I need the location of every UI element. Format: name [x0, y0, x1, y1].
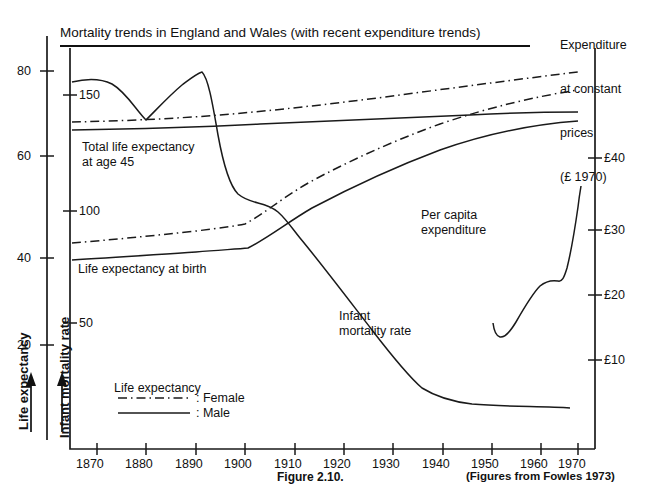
left-secondary-tick-150: 150	[79, 88, 100, 102]
plot-canvas	[0, 0, 647, 493]
series-per-capita-expenditure	[493, 186, 581, 337]
left-secondary-tick-100: 100	[79, 204, 100, 218]
left-primary-axis-caption: Life expectancy	[16, 332, 31, 430]
annotation-total-life-expectancy: Total life expectancy at age 45	[82, 140, 195, 170]
left-primary-tick-40: 40	[17, 251, 31, 265]
x-tick-1910: 1910	[274, 457, 302, 471]
series-total-life-expectancy-female	[72, 72, 578, 122]
right-tick-10: £10	[604, 353, 625, 367]
x-tick-1880: 1880	[125, 457, 153, 471]
left-secondary-axis-caption: Infant mortality rate	[57, 317, 72, 438]
x-tick-1870: 1870	[76, 457, 104, 471]
series-infant-mortality-rate	[72, 72, 570, 408]
figure-root: Mortality trends in England and Wales (w…	[0, 0, 647, 493]
left-primary-tick-60: 60	[17, 149, 31, 163]
legend: Life expectancy	[114, 381, 201, 396]
legend-label-male: : Male	[196, 406, 230, 421]
left-secondary-tick-50: 50	[79, 316, 93, 330]
legend-label-female: : Female	[196, 391, 245, 406]
x-tick-1940: 1940	[422, 457, 450, 471]
x-tick-1900: 1900	[224, 457, 252, 471]
figure-source-note: (Figures from Fowles 1973)	[466, 470, 615, 484]
x-tick-1930: 1930	[372, 457, 400, 471]
x-tick-1920: 1920	[323, 457, 351, 471]
series-total-life-expectancy-male	[72, 112, 578, 130]
annotation-per-capita-expenditure: Per capita expenditure	[421, 208, 486, 238]
annotation-life-expectancy-at-birth: Life expectancy at birth	[78, 262, 207, 277]
right-tick-30: £30	[604, 223, 625, 237]
legend-title: Life expectancy	[114, 381, 201, 396]
figure-caption: Figure 2.10.	[277, 470, 344, 484]
x-tick-1960: 1960	[520, 457, 548, 471]
x-tick-1970: 1970	[558, 457, 586, 471]
x-tick-1890: 1890	[175, 457, 203, 471]
annotation-infant-mortality-rate: Infant mortality rate	[339, 309, 411, 339]
right-tick-40: £40	[604, 151, 625, 165]
x-tick-1950: 1950	[471, 457, 499, 471]
left-primary-tick-80: 80	[17, 64, 31, 78]
right-tick-20: £20	[604, 288, 625, 302]
